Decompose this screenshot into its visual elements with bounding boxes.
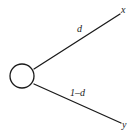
branch-weight-label-upper: d [77,24,82,34]
endpoint-label-y: y [122,120,126,130]
diagram-canvas [0,0,138,139]
figure-container: d 1–d x y [0,0,138,139]
split-node-circle [10,64,34,88]
branch-weight-label-lower: 1–d [70,88,85,98]
endpoint-label-x: x [121,5,125,15]
